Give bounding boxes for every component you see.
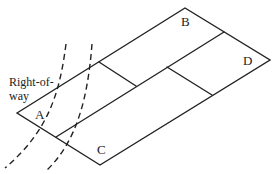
parcel-diagram: Right-of- way A B C D <box>0 0 278 174</box>
parcel-b-label: B <box>181 14 190 29</box>
cross-boundary-right <box>167 67 212 95</box>
clipped-caption <box>68 167 198 174</box>
middle-boundary-line <box>56 32 224 137</box>
cross-boundary-left <box>99 62 136 86</box>
right-of-way-dashed-left <box>5 44 66 168</box>
right-of-way-label-line1: Right-of- <box>9 75 54 89</box>
diagram-svg: Right-of- way A B C D <box>0 0 278 174</box>
right-of-way-dashed-right <box>47 44 92 170</box>
parcel-c-label: C <box>97 142 106 157</box>
parcel-outline <box>17 8 270 165</box>
parcel-d-label: D <box>243 53 252 68</box>
parcel-a-label: A <box>35 107 45 122</box>
right-of-way-label-line2: way <box>9 89 29 103</box>
